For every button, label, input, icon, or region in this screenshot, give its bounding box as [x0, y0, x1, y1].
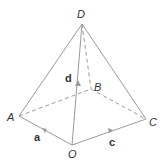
label-C: C	[149, 116, 157, 128]
label-A: A	[6, 111, 14, 123]
label-vector-a: a	[34, 131, 41, 143]
edge-DB	[82, 24, 91, 89]
pyramid-diagram: D B A C O d a c	[0, 0, 165, 167]
edge-BC	[91, 89, 146, 119]
edge-DA	[19, 24, 82, 116]
edge-DC	[82, 24, 146, 119]
label-D: D	[77, 8, 85, 20]
label-O: O	[68, 148, 77, 160]
label-vector-c: c	[109, 136, 115, 148]
arrow-d-icon	[75, 80, 81, 86]
label-B: B	[94, 81, 101, 93]
edge-AB	[19, 89, 91, 116]
label-vector-d: d	[65, 72, 72, 84]
arrow-a-icon	[42, 128, 47, 133]
